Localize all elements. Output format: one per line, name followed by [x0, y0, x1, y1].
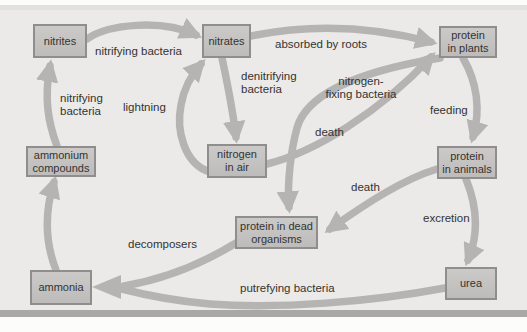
node-protein-in-dead-organisms: protein in deadorganisms — [235, 216, 318, 249]
node-label-line: protein — [451, 29, 485, 42]
label-denitrifying-bacteria: denitrifyingbacteria — [241, 70, 297, 96]
label-line: absorbed by roots — [275, 38, 367, 51]
arrow-nitrites-to-nitrates — [87, 25, 196, 39]
label-nitrogen-fixing-bacteria: nitrogen-fixing bacteria — [325, 75, 397, 101]
node-label-line: compounds — [33, 162, 90, 175]
nitrogen-cycle-figure: nitritesnitratesproteinin plantsammonium… — [0, 0, 527, 332]
arrow-ammonium-to-nitrites — [47, 66, 57, 146]
node-nitrates: nitrates — [202, 24, 251, 58]
label-line: feeding — [430, 104, 468, 117]
node-protein-in-plants: proteinin plants — [439, 26, 497, 58]
node-label-line: in plants — [448, 42, 489, 55]
arrow-animals-to-dead-organisms — [330, 169, 437, 229]
label-line: decomposers — [128, 238, 197, 251]
arrow-plants-to-animals — [463, 58, 477, 137]
node-label-line: organisms — [251, 233, 302, 246]
node-nitrogen-in-air: nitrogenin air — [207, 144, 267, 178]
arrow-air-to-nitrates — [180, 64, 210, 172]
label-lightning: lightning — [123, 101, 166, 114]
node-label-line: ammonia — [38, 281, 83, 294]
label-line: nitrifying — [60, 92, 103, 105]
label-death-lower: death — [351, 181, 380, 194]
node-protein-in-animals: proteinin animals — [437, 146, 497, 179]
arrow-nitrates-to-air — [222, 58, 236, 137]
label-line: fixing bacteria — [325, 88, 397, 101]
node-label-line: protein — [450, 150, 484, 163]
node-ammonium-compounds: ammoniumcompounds — [26, 146, 96, 177]
node-label-line: nitrogen — [217, 148, 257, 161]
node-label-line: in animals — [442, 163, 492, 176]
label-line: denitrifying — [241, 70, 297, 83]
label-line: nitrogen- — [325, 75, 397, 88]
node-label-line: nitrates — [208, 35, 244, 48]
label-feeding: feeding — [430, 104, 468, 117]
node-label-line: urea — [460, 277, 482, 290]
label-line: excretion — [423, 212, 470, 225]
label-line: putrefying bacteria — [240, 282, 335, 295]
node-label-line: nitrites — [44, 35, 76, 48]
label-nitrifying-bacteria-left: nitrifyingbacteria — [60, 92, 103, 118]
label-line: bacteria — [60, 105, 103, 118]
label-death-upper: death — [315, 126, 344, 139]
ammonia-merge-arrowhead — [92, 275, 121, 299]
label-excretion: excretion — [423, 212, 470, 225]
node-urea: urea — [445, 267, 497, 300]
label-line: death — [351, 181, 380, 194]
label-putrefying-bacteria: putrefying bacteria — [240, 282, 335, 295]
node-label-line: ammonium — [34, 149, 88, 162]
label-line: death — [315, 126, 344, 139]
label-decomposers: decomposers — [128, 238, 197, 251]
node-label-line: in air — [225, 161, 249, 174]
node-ammonia: ammonia — [30, 270, 92, 305]
label-line: bacteria — [241, 83, 297, 96]
label-absorbed-by-roots: absorbed by roots — [275, 38, 367, 51]
label-nitrifying-bacteria-top: nitrifying bacteria — [95, 45, 182, 58]
node-label-line: protein in dead — [240, 220, 313, 233]
label-line: lightning — [123, 101, 166, 114]
label-line: nitrifying bacteria — [95, 45, 182, 58]
node-nitrites: nitrites — [33, 24, 87, 58]
arrow-ammonia-to-ammonium — [47, 182, 56, 270]
